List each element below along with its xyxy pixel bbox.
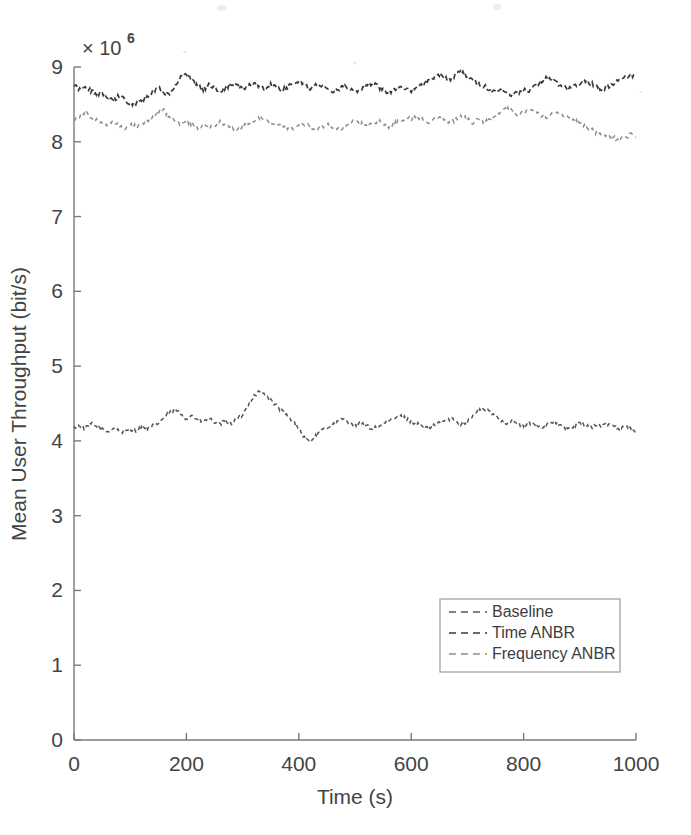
chart-figure: 0123456789 02004006008001000 × 10 6 Time… [0, 0, 691, 835]
y-tick-label: 7 [51, 205, 63, 228]
x-tick-label: 0 [68, 752, 80, 775]
y-tick-label: 3 [51, 504, 63, 527]
y-tick-label: 2 [51, 578, 63, 601]
y-tick-label: 0 [51, 728, 63, 751]
legend-label-baseline[interactable]: Baseline [492, 603, 553, 620]
y-tick-label: 8 [51, 130, 63, 153]
y-tick-label: 5 [51, 354, 63, 377]
x-tick-label: 800 [506, 752, 541, 775]
y-axis-label: Mean User Throughput (bit/s) [7, 267, 30, 541]
x-tick-label: 200 [169, 752, 204, 775]
exponent-mantissa: × 10 [82, 37, 121, 59]
y-tick-label: 1 [51, 653, 63, 676]
throughput-line-chart: 0123456789 02004006008001000 × 10 6 Time… [0, 0, 691, 835]
y-tick-label: 9 [51, 55, 63, 78]
legend-label-time-anbr[interactable]: Time ANBR [492, 624, 575, 641]
y-tick-label: 6 [51, 279, 63, 302]
legend-label-frequency-anbr[interactable]: Frequency ANBR [492, 645, 616, 662]
x-tick-label: 400 [281, 752, 316, 775]
x-tick-label: 1000 [613, 752, 660, 775]
figure-background [0, 0, 691, 835]
x-axis-label: Time (s) [317, 785, 393, 808]
x-tick-label: 600 [394, 752, 429, 775]
exponent-power: 6 [127, 30, 135, 46]
y-tick-label: 4 [51, 429, 63, 452]
chart-legend[interactable]: BaselineTime ANBRFrequency ANBR [440, 599, 620, 672]
